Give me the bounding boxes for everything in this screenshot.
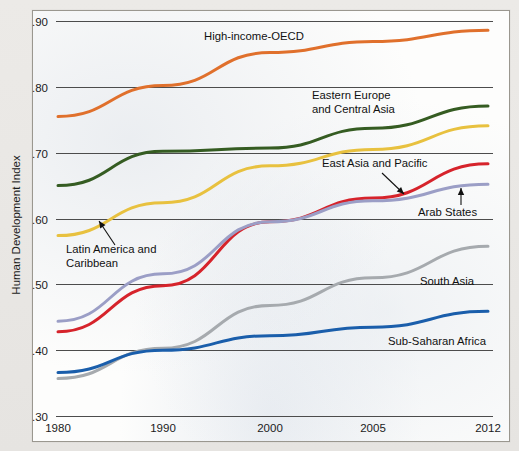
series-label-eastern-europe-and-central-asia: Eastern Europeand Central Asia <box>312 89 396 115</box>
series-label-east-asia-and-pacific: East Asia and Pacific <box>322 157 428 169</box>
y-tick-label: .90 <box>32 16 48 28</box>
y-tick-label: .80 <box>32 82 48 94</box>
y-tick-label: .30 <box>32 411 48 423</box>
annotation-arrow <box>382 173 404 194</box>
x-tick-label: 2000 <box>257 422 283 434</box>
line-chart: .90.80.70.60.50.40.30 198019902000200520… <box>0 0 519 451</box>
annotation-arrows-group <box>99 173 464 245</box>
y-tick-label: .70 <box>32 148 48 160</box>
series-group <box>58 30 488 378</box>
series-label-latin-america-and-caribbean: Latin America andCaribbean <box>66 243 156 269</box>
series-label-sub-saharan-africa: Sub-Saharan Africa <box>388 335 487 347</box>
x-tick-label: 2012 <box>475 422 501 434</box>
x-tick-label: 2005 <box>360 422 386 434</box>
series-label-south-asia: South Asia <box>420 275 475 287</box>
y-tick-labels-group: .90.80.70.60.50.40.30 <box>32 16 48 423</box>
annotation-arrow <box>99 221 115 245</box>
series-label-high-income-oecd: High-income-OECD <box>204 30 304 42</box>
y-axis-title: Human Development Index <box>10 155 22 295</box>
series-labels-group: High-income-OECDEastern Europeand Centra… <box>66 30 487 347</box>
x-tick-labels-group: 19801990200020052012 <box>45 422 501 434</box>
series-line-south-asia <box>58 246 488 378</box>
x-tick-label: 1980 <box>45 422 71 434</box>
series-label-arab-states: Arab States <box>418 206 477 218</box>
y-tick-label: .50 <box>32 279 48 291</box>
annotation-arrow <box>458 188 464 205</box>
y-tick-label: .40 <box>32 345 48 357</box>
y-axis-title-group: Human Development Index <box>10 155 22 295</box>
series-line-high-income-oecd <box>58 30 488 116</box>
chart-page: .90.80.70.60.50.40.30 198019902000200520… <box>0 0 519 451</box>
y-tick-label: .60 <box>32 214 48 226</box>
x-tick-label: 1990 <box>150 422 176 434</box>
series-line-eastern-europe-and-central-asia <box>58 106 488 186</box>
